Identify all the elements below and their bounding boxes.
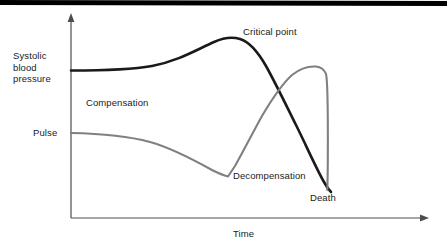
annotation-decompensation: Decompensation — [233, 170, 306, 182]
series-systolic-blood-pressure — [71, 38, 331, 192]
x-axis — [71, 215, 429, 222]
y-axis-label-pulse: Pulse — [33, 127, 57, 139]
y-axis — [68, 13, 75, 218]
x-axis-label-time: Time — [233, 228, 254, 240]
annotation-compensation: Compensation — [86, 97, 148, 109]
annotation-death: Death — [310, 192, 336, 204]
annotation-critical-point: Critical point — [243, 26, 297, 38]
shock-physiology-figure: Systolic blood pressure Pulse Compensati… — [0, 0, 447, 252]
plot-area — [0, 0, 447, 252]
y-axis-label-systolic-blood-pressure: Systolic blood pressure — [13, 50, 51, 85]
